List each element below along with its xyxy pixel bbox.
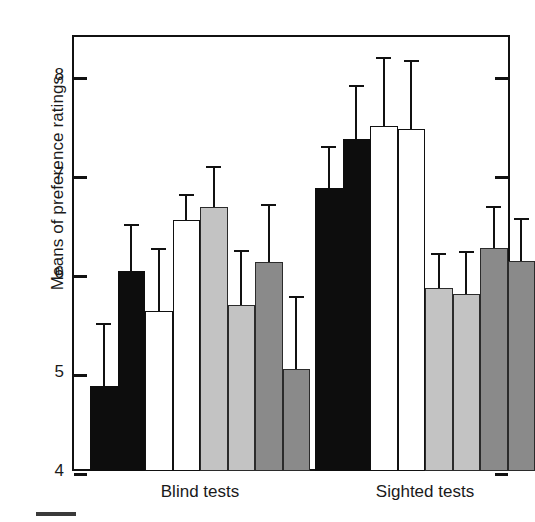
- error-bar-stem: [213, 166, 215, 208]
- error-bar-cap: [431, 253, 446, 255]
- error-bar-stem: [103, 323, 105, 385]
- bar: [453, 294, 481, 471]
- y-tick-label: 8: [38, 65, 64, 85]
- bar: [200, 207, 228, 471]
- y-tick-mark: [74, 473, 87, 476]
- bar: [145, 311, 173, 471]
- y-tick-label: 6: [38, 263, 64, 283]
- error-bar-cap: [151, 248, 166, 250]
- bar: [255, 262, 283, 471]
- error-bar-stem: [383, 57, 385, 126]
- error-bar-stem: [185, 194, 187, 221]
- x-axis-group-label: Blind tests: [161, 482, 239, 502]
- error-bar-stem: [493, 206, 495, 248]
- error-bar-stem: [520, 218, 522, 261]
- bar: [283, 369, 311, 471]
- bar: [480, 248, 508, 471]
- bar: [370, 126, 398, 471]
- error-bar-stem: [465, 251, 467, 294]
- error-bar-cap: [96, 323, 111, 325]
- error-bar-stem: [158, 248, 160, 311]
- error-bar-cap: [404, 60, 419, 62]
- error-bar-cap: [486, 206, 501, 208]
- bar: [343, 139, 371, 471]
- error-bar-stem: [295, 296, 297, 369]
- error-bar-cap: [261, 204, 276, 206]
- error-bar-stem: [355, 85, 357, 140]
- caption-rule: [36, 512, 76, 516]
- bars-layer: [72, 35, 510, 471]
- error-bar-cap: [179, 194, 194, 196]
- error-bar-cap: [289, 296, 304, 298]
- error-bar-stem: [328, 146, 330, 188]
- bar: [90, 386, 118, 471]
- error-bar-cap: [321, 146, 336, 148]
- error-bar-stem: [410, 60, 412, 129]
- y-tick-label: 5: [38, 362, 64, 382]
- bar: [508, 261, 535, 471]
- error-bar-stem: [438, 253, 440, 288]
- bar: [315, 188, 343, 471]
- error-bar-stem: [130, 224, 132, 271]
- y-tick-label: 7: [38, 164, 64, 184]
- error-bar-stem: [268, 204, 270, 261]
- error-bar-stem: [240, 250, 242, 305]
- x-axis-group-label: Sighted tests: [376, 482, 474, 502]
- bar: [425, 288, 453, 471]
- error-bar-cap: [206, 166, 221, 168]
- error-bar-cap: [514, 218, 529, 220]
- error-bar-cap: [376, 57, 391, 59]
- bar: [173, 220, 201, 471]
- y-tick-mark-right: [495, 473, 508, 476]
- bar: [118, 271, 146, 471]
- error-bar-cap: [124, 224, 139, 226]
- error-bar-cap: [234, 250, 249, 252]
- bar: [398, 129, 426, 471]
- error-bar-cap: [459, 251, 474, 253]
- bar: [228, 305, 256, 471]
- error-bar-cap: [349, 85, 364, 87]
- y-tick-label: 4: [38, 461, 64, 481]
